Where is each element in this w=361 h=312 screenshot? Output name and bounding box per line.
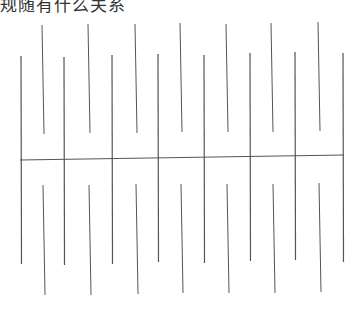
long-vertical-line (158, 54, 159, 262)
lower-short-line (136, 184, 138, 294)
upper-short-line (226, 24, 228, 132)
lower-short-line (89, 185, 91, 295)
upper-short-line (271, 23, 273, 132)
lower-short-line (319, 183, 321, 292)
long-vertical-line (112, 55, 113, 264)
long-vertical-line (204, 55, 205, 263)
long-vertical-line (295, 52, 296, 260)
upper-short-lines (42, 22, 320, 134)
long-vertical-line (21, 56, 22, 264)
long-vertical-line (64, 57, 65, 265)
lower-short-lines (43, 183, 321, 295)
upper-short-line (88, 24, 90, 133)
upper-short-line (42, 25, 44, 134)
lower-short-line (273, 184, 275, 293)
lower-short-line (227, 184, 229, 293)
upper-short-line (135, 24, 137, 133)
line-diagram (0, 0, 361, 312)
upper-short-line (180, 23, 182, 132)
lower-short-line (43, 185, 45, 295)
lower-short-line (181, 184, 183, 293)
long-vertical-line (343, 53, 344, 262)
upper-short-line (318, 22, 320, 131)
long-vertical-line (250, 53, 251, 261)
